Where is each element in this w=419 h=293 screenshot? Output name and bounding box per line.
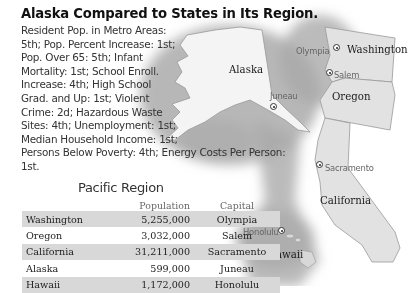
state-label-alaska: Alaska [229,64,263,75]
column-header-state [22,199,100,211]
table-row: Alaska 599,000 Juneau [22,260,280,276]
stats-line: Median Household Income: 1st; [21,133,321,147]
page-title: Alaska Compared to States in Its Region. [21,6,318,21]
state-label-oregon: Oregon [332,91,370,102]
cell-capital: Olympia [194,211,280,227]
column-header-population: Population [100,199,194,211]
cell-population: 31,211,000 [100,244,194,260]
state-label-california: California [320,195,371,206]
cell-state: Washington [22,211,100,227]
cell-population: 1,172,000 [100,277,194,293]
stats-line: 1st. [21,160,321,174]
cell-state: Alaska [22,260,100,276]
stats-line: 5th; Pop. Percent Increase: 1st; [21,38,321,52]
table-row: California 31,211,000 Sacramento [22,244,280,260]
stats-line: Mortality: 1st; School Enroll. [21,65,321,79]
cell-capital: Honolulu [194,277,280,293]
pacific-region-table: Population Capital Washington 5,255,000 … [22,199,280,293]
table-row: Oregon 3,032,000 Salem [22,227,280,243]
table-title: Pacific Region [78,180,164,195]
stats-line: Increase: 4th; High School [21,78,321,92]
capital-label-juneau: Juneau [270,91,297,101]
cell-state: Oregon [22,227,100,243]
cell-state: Hawaii [22,277,100,293]
state-label-washington: Washington [347,44,408,55]
cell-state: California [22,244,100,260]
table-header-row: Population Capital [22,199,280,211]
capital-marker-salem [326,69,333,76]
table-row: Hawaii 1,172,000 Honolulu [22,277,280,293]
cell-population: 3,032,000 [100,227,194,243]
capital-label-sacramento: Sacramento [325,163,374,173]
cell-capital: Salem [194,227,280,243]
cell-capital: Sacramento [194,244,280,260]
stats-line: Resident Pop. in Metro Areas: [21,24,321,38]
table-row: Washington 5,255,000 Olympia [22,211,280,227]
capital-label-salem: Salem [334,70,359,80]
capital-label-olympia: Olympia [296,46,329,56]
cell-population: 599,000 [100,260,194,276]
stats-line: Persons Below Poverty: 4th; Energy Costs… [21,146,321,160]
stats-line: Pop. Over 65: 5th; Infant [21,51,321,65]
capital-marker-juneau [270,103,277,110]
cell-population: 5,255,000 [100,211,194,227]
california-shape [315,118,400,262]
cell-capital: Juneau [194,260,280,276]
capital-marker-olympia [333,44,340,51]
stats-line: Sites: 4th; Unemployment: 1st; [21,119,321,133]
column-header-capital: Capital [194,199,280,211]
capital-marker-sacramento [316,161,323,168]
